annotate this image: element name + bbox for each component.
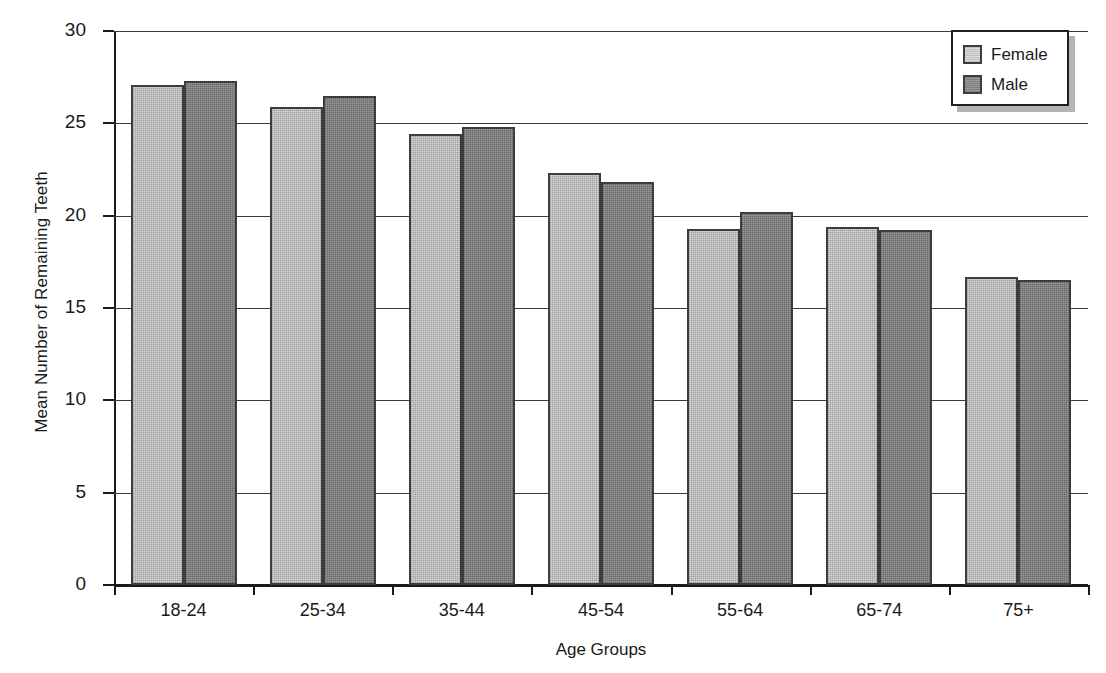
x-tick-mark: [531, 585, 533, 595]
bars-layer: [114, 31, 1088, 585]
bar-female-18-24: [131, 85, 184, 585]
bar-group: [409, 31, 515, 585]
y-tick-label-30: 30: [24, 20, 86, 39]
bar-male-45-54: [601, 182, 654, 585]
legend: Female Male: [951, 30, 1069, 106]
bar-group: [687, 31, 793, 585]
bar-group: [270, 31, 376, 585]
bar-male-65-74: [879, 230, 932, 585]
bar-female-25-34: [270, 107, 323, 585]
x-axis-title: Age Groups: [114, 640, 1088, 660]
bar-group: [826, 31, 932, 585]
x-tick-label-25-34: 25-34: [253, 600, 393, 620]
x-tick-mark: [671, 585, 673, 595]
bar-group: [548, 31, 654, 585]
legend-swatch-female-icon: [963, 45, 982, 64]
bar-chart: Mean Number of Remaining Teeth 051015202…: [0, 0, 1106, 673]
x-tick-mark: [1088, 585, 1090, 595]
y-tick-label-25: 25: [24, 112, 86, 131]
bar-male-18-24: [184, 81, 237, 585]
legend-swatch-male-icon: [963, 75, 982, 94]
x-tick-label-35-44: 35-44: [392, 600, 532, 620]
x-tick-label-18-24: 18-24: [114, 600, 254, 620]
bar-female-35-44: [409, 134, 462, 585]
bar-group: [965, 31, 1071, 585]
x-tick-mark: [253, 585, 255, 595]
y-tick-label-5: 5: [24, 482, 86, 501]
x-tick-mark: [810, 585, 812, 595]
y-tick-label-20: 20: [24, 205, 86, 224]
legend-item-female: Female: [963, 39, 1067, 69]
bar-male-35-44: [462, 127, 515, 585]
x-tick-mark: [114, 585, 116, 595]
legend-label-male: Male: [991, 76, 1028, 93]
y-tick-label-10: 10: [24, 389, 86, 408]
y-tick-mark-10: [103, 399, 114, 401]
bar-female-55-64: [687, 229, 740, 585]
y-tick-mark-25: [103, 122, 114, 124]
y-tick-label-15: 15: [24, 297, 86, 316]
x-tick-label-65-74: 65-74: [809, 600, 949, 620]
y-tick-mark-15: [103, 307, 114, 309]
y-tick-mark-0: [103, 584, 114, 586]
bar-female-65-74: [826, 227, 879, 585]
y-tick-mark-5: [103, 492, 114, 494]
x-tick-mark: [392, 585, 394, 595]
x-tick-mark: [949, 585, 951, 595]
legend-label-female: Female: [991, 46, 1048, 63]
legend-item-male: Male: [963, 69, 1067, 99]
y-tick-mark-20: [103, 215, 114, 217]
bar-group: [131, 31, 237, 585]
x-tick-label-55-64: 55-64: [670, 600, 810, 620]
bar-male-55-64: [740, 212, 793, 585]
bar-male-25-34: [323, 96, 376, 585]
x-tick-label-75+: 75+: [948, 600, 1088, 620]
plot-area: [114, 31, 1088, 585]
bar-female-75+: [965, 277, 1018, 585]
y-tick-mark-30: [103, 30, 114, 32]
bar-female-45-54: [548, 173, 601, 585]
bar-male-75+: [1018, 280, 1071, 585]
y-tick-label-0: 0: [24, 574, 86, 593]
x-tick-label-45-54: 45-54: [531, 600, 671, 620]
